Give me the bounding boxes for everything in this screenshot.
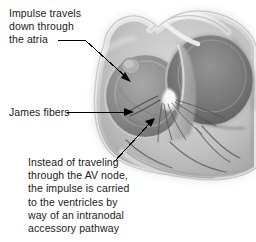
annotation-pathway-line-2: through the AV node, xyxy=(28,169,129,182)
annotation-james-fibers-line-1: James fibers xyxy=(9,106,70,119)
annotation-james-fibers: James fibers xyxy=(9,106,70,119)
annotation-pathway-line-3: the impulse is carried xyxy=(28,182,129,195)
annotation-accessory-pathway: Instead of traveling through the AV node… xyxy=(28,156,129,235)
annotation-atria-line-1: Impulse travels xyxy=(9,7,81,20)
illustration-page: Impulse travels down through the atria J… xyxy=(0,0,256,242)
annotation-pathway-line-6: accessory pathway xyxy=(28,222,129,235)
annotation-impulse-travels-atria: Impulse travels down through the atria xyxy=(9,7,81,47)
annotation-pathway-line-1: Instead of traveling xyxy=(28,156,129,169)
annotation-pathway-line-4: to the ventricles by xyxy=(28,196,129,209)
annotation-atria-line-3: the atria xyxy=(9,33,81,46)
annotation-pathway-line-5: way of an intranodal xyxy=(28,209,129,222)
annotation-atria-line-2: down through xyxy=(9,20,81,33)
